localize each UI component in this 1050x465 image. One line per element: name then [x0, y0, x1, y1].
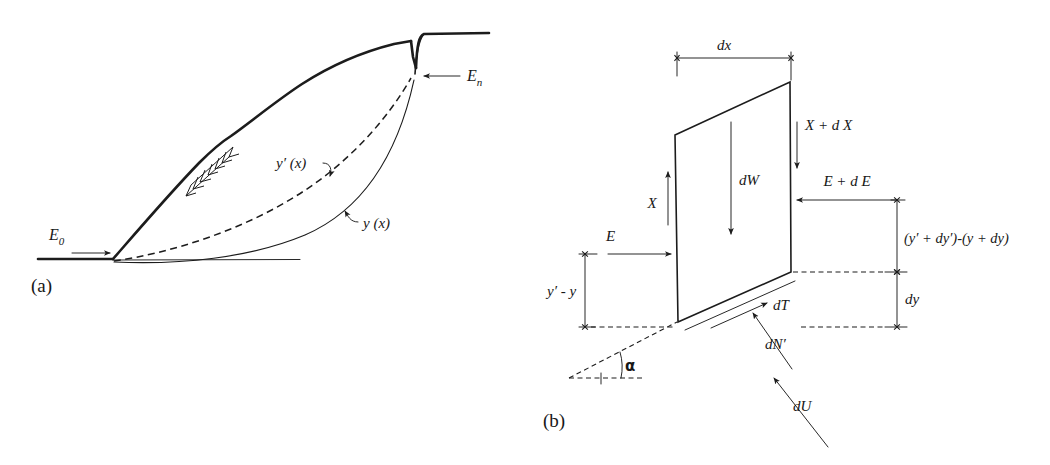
panel-a-tag: (a) — [31, 275, 52, 297]
E-plus-dE-label: E + d E — [822, 173, 870, 189]
panel-a-canvas: E0 En y′ (x) y (x) (a) — [0, 0, 525, 465]
dT-label: dT — [773, 297, 791, 313]
panel-b: dx dW X X + d X E E + d E (y′ + dy′)-(y … — [525, 0, 1050, 465]
y-leader — [345, 211, 358, 222]
dN-prime-label: dN′ — [765, 336, 787, 352]
dW-label: dW — [739, 172, 761, 188]
dU-label: dU — [793, 398, 813, 414]
alpha-arc — [620, 352, 622, 378]
y-prime-curve — [114, 78, 411, 261]
y-prime-minus-y-label: y′ - y — [545, 283, 576, 299]
dT-arrow — [711, 303, 767, 328]
X-label: X — [646, 195, 657, 211]
figure-root: E0 En y′ (x) y (x) (a) — [0, 0, 1050, 465]
panel-b-tag: (b) — [543, 410, 565, 432]
alpha-inclined-line — [569, 322, 677, 378]
dx-label: dx — [717, 37, 732, 53]
alpha-label: α — [625, 357, 635, 375]
X-plus-dX-label: X + d X — [804, 117, 853, 133]
E-label: E — [605, 228, 615, 244]
slice-outline — [675, 82, 791, 322]
E0-label: E0 — [48, 226, 65, 247]
En-label: En — [466, 67, 483, 88]
y-curve — [114, 80, 414, 263]
dy-label: dy — [905, 291, 920, 307]
height-difference-label: (y′ + dy′)-(y + dy) — [904, 230, 1009, 247]
slope-hatching — [186, 147, 239, 196]
y-prime-label: y′ (x) — [274, 155, 306, 172]
panel-a: E0 En y′ (x) y (x) (a) — [0, 0, 525, 465]
upper-plateau — [416, 33, 489, 68]
y-label: y (x) — [361, 215, 390, 232]
panel-b-canvas: dx dW X X + d X E E + d E (y′ + dy′)-(y … — [525, 0, 1050, 465]
